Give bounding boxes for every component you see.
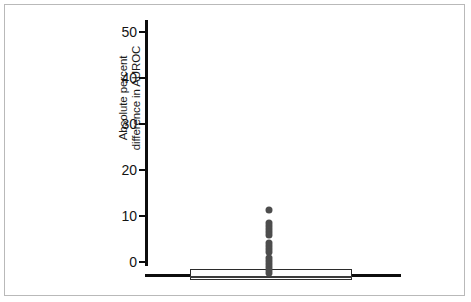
y-tick-label-10: 10 bbox=[103, 209, 137, 223]
outlier-point bbox=[266, 270, 273, 277]
y-axis-label: Absolute percent difference in AUROC bbox=[110, 28, 150, 168]
y-tick-label-0: 0 bbox=[103, 255, 137, 269]
y-tick-label-20: 20 bbox=[103, 163, 137, 177]
plot-area bbox=[145, 18, 401, 274]
y-tick-label-40: 40 bbox=[103, 71, 137, 85]
y-axis-label-line-2: difference in AUROC bbox=[130, 46, 144, 151]
y-tick-label-30: 30 bbox=[103, 117, 137, 131]
outlier-point bbox=[266, 207, 273, 214]
y-tick-label-50: 50 bbox=[103, 25, 137, 39]
median-line bbox=[190, 276, 352, 278]
boxplot-figure: Absolute percent difference in AUROC 50 … bbox=[0, 0, 471, 302]
outlier-point bbox=[266, 232, 273, 239]
